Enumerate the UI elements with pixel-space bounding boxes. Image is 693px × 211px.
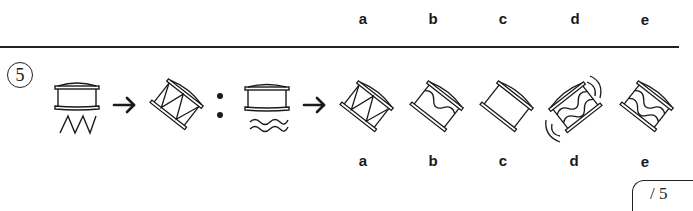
option-label-c: c bbox=[493, 152, 513, 169]
option-label-b: b bbox=[423, 152, 443, 169]
prev-option-label-d: d bbox=[565, 10, 585, 27]
tilted-drum-zigzag-icon bbox=[148, 80, 204, 130]
prev-option-label-a: a bbox=[353, 10, 373, 27]
option-b-drum-icon[interactable] bbox=[408, 82, 464, 132]
analogy-colon bbox=[217, 93, 223, 99]
option-label-d: d bbox=[564, 152, 584, 169]
arrow-right-icon bbox=[302, 96, 328, 114]
prev-option-label-c: c bbox=[493, 10, 513, 27]
option-c-drum-icon[interactable] bbox=[478, 82, 534, 132]
upright-drum-wavy-icon bbox=[240, 82, 295, 134]
arrow-right-icon bbox=[112, 96, 138, 114]
option-e-drum-icon[interactable] bbox=[618, 82, 674, 132]
upright-drum-zigzag-icon bbox=[50, 80, 105, 140]
option-label-a: a bbox=[353, 152, 373, 169]
option-d-drum-icon[interactable] bbox=[542, 72, 612, 146]
analogy-colon bbox=[217, 112, 223, 118]
option-a-drum-icon[interactable] bbox=[338, 82, 394, 132]
prev-option-label-b: b bbox=[423, 10, 443, 27]
section-divider bbox=[0, 46, 679, 48]
prev-option-label-e: e bbox=[635, 11, 655, 28]
score-text: / 5 bbox=[650, 184, 667, 204]
option-label-e: e bbox=[635, 153, 655, 170]
question-number: 5 bbox=[7, 62, 33, 88]
